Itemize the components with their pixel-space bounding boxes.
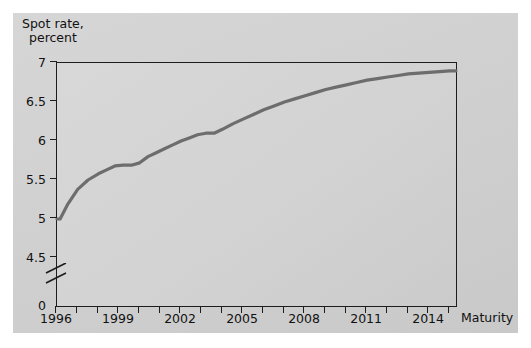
- figure-canvas: Spot rate,percent 04.555.566.57 19961999…: [0, 0, 531, 348]
- x-tick-label-2014: 2014: [412, 311, 444, 326]
- y-tick-label-4-5: 4.5: [6, 250, 46, 265]
- y-axis-labels: 04.555.566.57: [0, 0, 46, 348]
- x-tick-1997: [76, 306, 77, 313]
- y-tick-label-5-5: 5.5: [6, 172, 46, 187]
- x-tick-2015: [448, 306, 449, 313]
- x-tick-label-2005: 2005: [226, 311, 258, 326]
- y-tick-4-5: [50, 256, 57, 257]
- x-tick-2009: [324, 306, 325, 313]
- x-tick-2010: [345, 306, 346, 313]
- plot-area: [56, 62, 457, 307]
- y-tick-label-6: 6: [6, 133, 46, 148]
- x-tick-1998: [97, 306, 98, 313]
- y-tick-label-7: 7: [6, 55, 46, 70]
- axis-break-icon: [44, 263, 70, 291]
- y-tick-5-5: [50, 178, 57, 179]
- x-tick-2004: [221, 306, 222, 313]
- y-tick-6-5: [50, 100, 57, 101]
- y-tick-label-5: 5: [6, 211, 46, 226]
- x-tick-label-2002: 2002: [164, 311, 196, 326]
- x-tick-2007: [283, 306, 284, 313]
- y-tick-6: [50, 139, 57, 140]
- spot-rate-curve: [57, 63, 456, 306]
- x-tick-2012: [386, 306, 387, 313]
- x-tick-label-1996: 1996: [40, 311, 72, 326]
- x-tick-2006: [262, 306, 263, 313]
- x-tick-2013: [407, 306, 408, 313]
- x-tick-label-2008: 2008: [288, 311, 320, 326]
- x-tick-2003: [200, 306, 201, 313]
- y-tick-7: [50, 61, 57, 62]
- x-tick-label-2011: 2011: [350, 311, 382, 326]
- y-tick-5: [50, 217, 57, 218]
- spot-rate-line: [57, 71, 456, 219]
- x-tick-2001: [159, 306, 160, 313]
- y-tick-label-6-5: 6.5: [6, 94, 46, 109]
- x-tick-label-1999: 1999: [102, 311, 134, 326]
- x-tick-2000: [138, 306, 139, 313]
- x-axis-title: Maturity: [461, 310, 513, 325]
